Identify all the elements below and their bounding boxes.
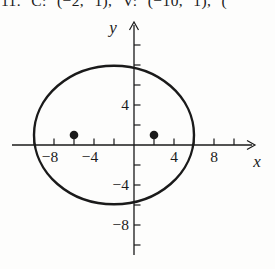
x-tick-label: −4 bbox=[82, 148, 99, 165]
coordinate-plane: −8−4484−4−8xy bbox=[0, 0, 275, 269]
y-axis-label: y bbox=[107, 18, 117, 37]
focus-point bbox=[70, 131, 79, 140]
focus-point bbox=[150, 131, 159, 140]
x-tick-label: −8 bbox=[42, 148, 59, 165]
y-tick-label: −4 bbox=[113, 176, 130, 193]
x-tick-label: 4 bbox=[170, 148, 178, 165]
x-tick-label: 8 bbox=[210, 148, 218, 165]
y-tick-label: 4 bbox=[121, 96, 129, 113]
y-tick-label: −8 bbox=[113, 216, 130, 233]
textbook-figure-page: 11. C: (−2, 1), V: (−10, 1), ( −8−4484−4… bbox=[0, 0, 275, 269]
x-axis-label: x bbox=[252, 152, 261, 171]
